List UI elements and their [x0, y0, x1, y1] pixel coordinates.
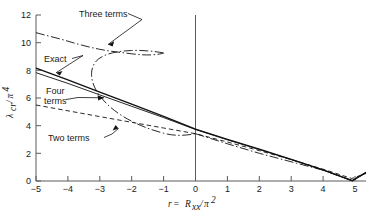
x-axis-title-sup: 2	[211, 195, 216, 205]
x-tick-label: 0	[193, 184, 198, 194]
y-tick-label: 8	[26, 66, 31, 76]
x-axis-title-base: R	[184, 199, 191, 209]
four-terms-leader-tail	[66, 98, 78, 100]
y-tick-label: 6	[26, 93, 31, 103]
axes-group	[36, 15, 366, 181]
y-axis-title: λ cr / π 4	[1, 87, 18, 120]
y-tick-labels-group: 0 2 4 6 8 10 12	[21, 10, 31, 186]
two-terms-leader-tail	[104, 134, 112, 138]
y-axis-title-sub: cr	[8, 103, 18, 111]
x-tick-label: −5	[31, 184, 41, 194]
x-tick-label: −2	[127, 184, 137, 194]
three-terms-leader	[108, 20, 142, 45]
y-tick-label: 4	[26, 121, 31, 131]
annotation-two-terms: Two terms	[48, 133, 90, 143]
y-tick-label: 12	[21, 10, 31, 20]
y-tick-label: 0	[26, 176, 31, 186]
curves-group	[36, 33, 366, 181]
y-axis-title-lambda: λ	[5, 114, 15, 119]
x-tick-label: 5	[352, 184, 357, 194]
figure-container: −5 −4 −3 −2 −1 0 1 2 3 4 5 0 2 4 6 8 10 …	[0, 0, 372, 214]
x-tick-label: −3	[95, 184, 105, 194]
x-tick-label: 1	[225, 184, 230, 194]
x-tick-label: 2	[257, 184, 262, 194]
curve-three-terms	[36, 33, 164, 55]
x-tick-label: −4	[63, 184, 73, 194]
y-axis-title-slash: /	[5, 99, 15, 104]
x-axis-title-pi: π	[204, 199, 209, 209]
y-axis-title-pi: π	[5, 94, 15, 99]
x-axis-title: r = R xx / π 2	[168, 195, 216, 212]
x-axis-title-eq: =	[173, 199, 179, 209]
chart-svg: −5 −4 −3 −2 −1 0 1 2 3 4 5 0 2 4 6 8 10 …	[0, 0, 372, 214]
annotation-leaders-group	[56, 14, 142, 138]
three-terms-leader-tail	[128, 14, 142, 20]
annotation-four-terms-line1: Four	[46, 86, 65, 96]
y-tick-label: 2	[26, 149, 31, 159]
x-axis-title-lhs: r	[168, 199, 172, 209]
y-ticks-group	[36, 15, 41, 181]
y-tick-label: 10	[21, 38, 31, 48]
annotation-four-terms-line2: terms	[44, 96, 67, 106]
annotation-exact: Exact	[44, 54, 67, 64]
annotation-three-terms: Three terms	[79, 9, 128, 19]
x-tick-label: 4	[321, 184, 326, 194]
x-tick-labels-group: −5 −4 −3 −2 −1 0 1 2 3 4 5	[31, 184, 358, 194]
x-ticks-group	[36, 176, 355, 181]
y-axis-title-sup: 4	[1, 87, 11, 92]
x-tick-label: 3	[289, 184, 294, 194]
curve-four-terms	[36, 73, 366, 181]
curve-exact	[36, 68, 366, 181]
exact-arrowhead	[56, 71, 63, 76]
x-tick-label: −1	[158, 184, 168, 194]
